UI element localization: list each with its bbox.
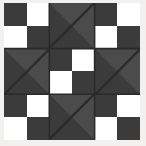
patch-light [27,94,50,117]
patch-light [4,117,27,140]
half-square-triangle [4,49,49,95]
block-middle-right [95,49,140,95]
half-square-triangle [49,3,94,49]
triangle-upper-right [49,94,94,140]
patch-light [117,3,140,26]
patch-light [27,3,50,26]
patch-dark [27,26,50,49]
triangle-upper-right [49,3,94,49]
patch-dark [4,3,27,26]
block-center [49,49,94,95]
quilt-block-image [0,0,146,146]
block-top-center [49,3,94,49]
block-bottom-left [4,94,49,140]
block-top-right [95,3,140,49]
quilt-field [4,3,140,140]
half-square-triangle [49,94,94,140]
patch-dark [117,26,140,49]
patch-light [49,71,72,94]
patch-dark [95,94,118,117]
half-square-triangle [95,49,140,95]
patch-light [117,94,140,117]
patch-dark [27,117,50,140]
patch-dark [72,71,95,94]
patch-light [72,49,95,72]
patch-light [4,26,27,49]
block-middle-left [4,49,49,95]
patch-dark [95,3,118,26]
quilt-grid [4,3,140,140]
patch-light [95,26,118,49]
block-top-left [4,3,49,49]
patch-light [95,117,118,140]
patch-dark [4,94,27,117]
triangle-upper-right [4,49,49,95]
triangle-upper-right [95,49,140,95]
block-bottom-right [95,94,140,140]
patch-dark [49,49,72,72]
patch-dark [117,117,140,140]
block-bottom-center [49,94,94,140]
